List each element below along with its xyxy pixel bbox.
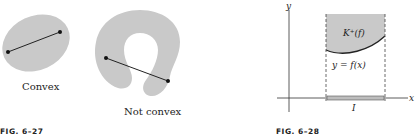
interval-bar [327,96,384,100]
not-convex-label: Not convex [124,106,182,117]
fig-6-28-caption: FIG. 6–28 [276,127,319,136]
region-label: K⁺(f) [342,28,365,38]
figures-canvas: Convex Not convex FIG. 6–27 y x K⁺(f) y … [0,0,416,138]
convex-label: Convex [22,81,60,92]
y-axis-label: y [285,1,292,11]
fig-6-27-caption: FIG. 6–27 [0,127,43,136]
curve-label: y = f(x) [331,60,366,70]
convex-region [0,4,79,83]
x-axis-label: x [409,93,414,103]
not-convex-region [95,10,180,96]
interval-label: I [351,103,356,113]
